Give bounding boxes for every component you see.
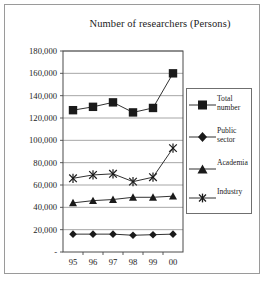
series-academia bbox=[69, 192, 177, 206]
legend-marker-square bbox=[189, 99, 216, 111]
y-tick-label: 40,000 bbox=[33, 202, 57, 212]
y-tick-label: 60,000 bbox=[33, 180, 57, 190]
legend-marker-diamond bbox=[189, 131, 216, 143]
y-tick-label: 140,000 bbox=[29, 91, 57, 101]
y-tick-label: - bbox=[54, 247, 57, 257]
x-tick-label: 99 bbox=[149, 257, 158, 267]
chart-legend: Total number Public sector Academia bbox=[186, 88, 252, 214]
legend-label-academia: Academia bbox=[217, 158, 253, 167]
y-tick-label: 160,000 bbox=[29, 68, 57, 78]
y-tick-label: 20,000 bbox=[33, 225, 57, 235]
x-tick-label: 00 bbox=[169, 257, 178, 267]
y-tick-label: 80,000 bbox=[33, 158, 57, 168]
y-tick-label: 100,000 bbox=[29, 135, 57, 145]
legend-marker-cross bbox=[189, 192, 216, 204]
legend-item-industry[interactable]: Industry bbox=[187, 188, 253, 214]
series-total-number bbox=[69, 69, 177, 116]
x-tick-label: 98 bbox=[129, 257, 138, 267]
legend-label-public-sector: Public sector bbox=[217, 126, 253, 144]
x-tick-label: 95 bbox=[69, 257, 78, 267]
legend-label-line2: sector bbox=[217, 135, 235, 144]
legend-label-line1: Public bbox=[217, 126, 236, 135]
legend-label-line2: number bbox=[217, 103, 240, 112]
legend-item-total-number[interactable]: Total number bbox=[187, 95, 253, 121]
legend-label-line1: Industry bbox=[217, 187, 242, 196]
series-public-sector bbox=[69, 230, 177, 239]
x-tick-label: 97 bbox=[109, 257, 118, 267]
legend-label-line1: Total bbox=[217, 94, 233, 103]
legend-item-public-sector[interactable]: Public sector bbox=[187, 127, 253, 153]
legend-label-industry: Industry bbox=[217, 187, 253, 196]
legend-item-academia[interactable]: Academia bbox=[187, 159, 253, 185]
y-tick-label: 180,000 bbox=[29, 46, 57, 56]
legend-marker-triangle bbox=[189, 163, 216, 175]
legend-label-line1: Academia bbox=[217, 158, 248, 167]
y-tick-label: 120,000 bbox=[29, 113, 57, 123]
x-tick-label: 96 bbox=[89, 257, 98, 267]
series-industry bbox=[69, 144, 177, 187]
legend-label-total-number: Total number bbox=[217, 94, 253, 112]
